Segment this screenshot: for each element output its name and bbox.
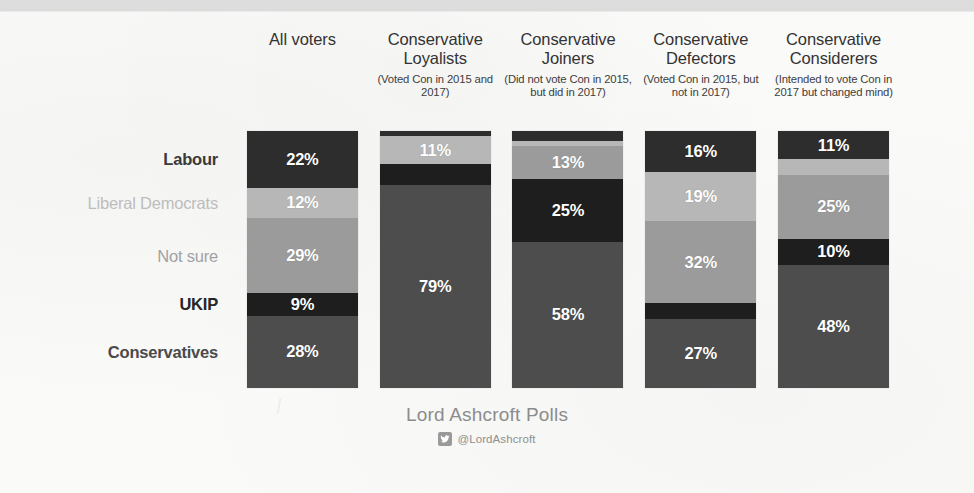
column-subtitle: (Voted Con in 2015, but not in 2017)	[636, 73, 765, 98]
bar-segment-ukip[interactable]: 10%	[778, 239, 889, 265]
bar-segment-not-sure[interactable]: 32%	[645, 221, 756, 303]
bar-segment-conservatives[interactable]: 27%	[645, 319, 756, 388]
chart-footer: Lord Ashcroft Polls @LordAshcroft	[0, 404, 974, 448]
bar-segment-conservatives[interactable]: 58%	[512, 242, 623, 388]
segment-value-label: 32%	[685, 253, 717, 272]
bar-segment-labour[interactable]: 11%	[778, 131, 889, 159]
chart-column-4: 11%25%10%48%	[767, 131, 900, 388]
row-label-ukip: UKIP	[179, 295, 218, 314]
twitter-handle-label: @LordAshcroft	[457, 433, 535, 445]
stacked-bar[interactable]: 16%19%32%27%	[645, 131, 756, 388]
bar-segment-labour[interactable]	[512, 131, 623, 141]
twitter-handle-row[interactable]: @LordAshcroft	[438, 432, 535, 446]
twitter-bird-icon	[438, 432, 452, 446]
row-label-not-sure: Not sure	[157, 246, 218, 265]
segment-value-label: 11%	[818, 136, 850, 155]
segment-value-label: 12%	[286, 193, 318, 212]
bar-segment-conservatives[interactable]: 48%	[778, 265, 889, 388]
column-title: All voters	[238, 30, 367, 49]
chart-column-1: 11%79%	[369, 131, 502, 388]
bar-segment-ukip[interactable]	[645, 303, 756, 318]
segment-value-label: 79%	[419, 277, 451, 296]
row-label-conservatives: Conservatives	[108, 343, 218, 362]
column-header-3: Conservative Defectors(Voted Con in 2015…	[634, 30, 767, 125]
column-headers: All votersConservative Loyalists(Voted C…	[236, 30, 900, 125]
segment-value-label: 58%	[552, 305, 584, 324]
bar-segment-liberal-democrats[interactable]: 11%	[380, 136, 491, 164]
segment-value-label: 19%	[685, 187, 717, 206]
bar-segment-not-sure[interactable]: 29%	[247, 218, 358, 293]
column-subtitle: (Voted Con in 2015 and 2017)	[371, 73, 500, 98]
segment-value-label: 29%	[286, 246, 318, 265]
segment-value-label: 11%	[419, 141, 451, 160]
column-title: Conservative Defectors	[636, 30, 765, 68]
bar-segment-ukip[interactable]: 9%	[247, 293, 358, 316]
column-header-2: Conservative Joiners(Did not vote Con in…	[502, 30, 635, 125]
brand-label: Lord Ashcroft Polls	[0, 404, 974, 426]
bar-segment-liberal-democrats[interactable]: 19%	[645, 172, 756, 221]
stacked-bar[interactable]: 22%12%29%9%28%	[247, 131, 358, 388]
bar-segment-ukip[interactable]: 25%	[512, 179, 623, 242]
segment-value-label: 10%	[817, 242, 849, 261]
segment-value-label: 13%	[552, 153, 584, 172]
segment-value-label: 16%	[685, 142, 717, 161]
column-header-1: Conservative Loyalists(Voted Con in 2015…	[369, 30, 502, 125]
segment-value-label: 22%	[286, 150, 318, 169]
chart-column-2: 13%25%58%	[502, 131, 635, 388]
bar-segment-liberal-democrats[interactable]: 12%	[247, 188, 358, 219]
column-header-0: All voters	[236, 30, 369, 125]
column-subtitle: (Did not vote Con in 2015, but did in 20…	[504, 73, 633, 98]
segment-value-label: 9%	[291, 295, 314, 314]
segment-value-label: 28%	[286, 342, 318, 361]
bar-segment-not-sure[interactable]: 25%	[778, 175, 889, 239]
series-row-labels: LabourLiberal DemocratsNot sureUKIPConse…	[0, 131, 228, 388]
row-label-liberal-democrats: Liberal Democrats	[88, 193, 219, 212]
segment-value-label: 48%	[817, 317, 849, 336]
bar-segment-ukip[interactable]	[380, 164, 491, 185]
column-title: Conservative Joiners	[504, 30, 633, 68]
chart-column-3: 16%19%32%27%	[634, 131, 767, 388]
chart-column-0: 22%12%29%9%28%	[236, 131, 369, 388]
bar-segment-conservatives[interactable]: 79%	[380, 185, 491, 388]
segment-value-label: 27%	[685, 344, 717, 363]
stacked-bar[interactable]: 13%25%58%	[512, 131, 623, 388]
bar-segment-conservatives[interactable]: 28%	[247, 316, 358, 388]
bar-segment-labour[interactable]: 22%	[247, 131, 358, 188]
bar-segment-liberal-democrats[interactable]	[778, 159, 889, 174]
stacked-bar[interactable]: 11%79%	[380, 131, 491, 388]
segment-value-label: 25%	[817, 197, 849, 216]
column-title: Conservative Considerers	[769, 30, 898, 68]
stacked-bar[interactable]: 11%25%10%48%	[778, 131, 889, 388]
row-label-labour: Labour	[163, 150, 218, 169]
bar-segment-labour[interactable]: 16%	[645, 131, 756, 172]
bar-segment-not-sure[interactable]: 13%	[512, 146, 623, 179]
stacked-bar-chart: 22%12%29%9%28%11%79%13%25%58%16%19%32%27…	[236, 131, 900, 388]
column-header-4: Conservative Considerers(Intended to vot…	[767, 30, 900, 125]
column-title: Conservative Loyalists	[371, 30, 500, 68]
segment-value-label: 25%	[552, 201, 584, 220]
column-subtitle: (Intended to vote Con in 2017 but change…	[769, 73, 898, 98]
